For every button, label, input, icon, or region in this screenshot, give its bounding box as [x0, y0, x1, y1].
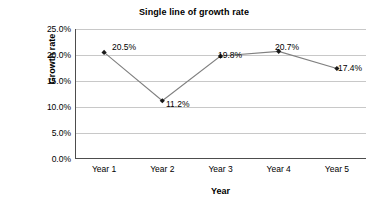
y-axis-tick-labels: 25.0%20.0%15.0%10.0%5.0%0.0% — [27, 29, 71, 159]
data-point-label: 20.7% — [275, 43, 299, 52]
x-axis-title: Year — [75, 186, 366, 196]
x-axis-tick-labels: Year 1Year 2Year 3Year 4Year 5 — [75, 163, 366, 179]
x-axis-tick-label: Year 2 — [133, 163, 191, 179]
data-point-label: 19.8% — [218, 51, 242, 60]
x-axis-tick-label: Year 4 — [250, 163, 308, 179]
y-axis-tick-label: 20.0% — [31, 51, 71, 60]
y-axis-tick-label: 25.0% — [31, 25, 71, 34]
data-point-label: 11.2% — [166, 100, 189, 109]
data-point-label: 17.4% — [338, 64, 362, 73]
x-axis-tick-label: Year 1 — [75, 163, 133, 179]
chart-title: Single line of growth rate — [0, 7, 388, 17]
x-axis-tick-label: Year 5 — [308, 163, 366, 179]
y-axis-tick-label: 0.0% — [31, 155, 71, 164]
y-axis-tick-label: 10.0% — [31, 103, 71, 112]
x-axis-tick-label: Year 3 — [191, 163, 249, 179]
line-chart: Single line of growth rate Growth rate 2… — [0, 0, 388, 207]
y-axis-tick-label: 5.0% — [31, 129, 71, 138]
y-axis-tick-label: 15.0% — [31, 77, 71, 86]
data-point-label: 20.5% — [112, 43, 136, 52]
